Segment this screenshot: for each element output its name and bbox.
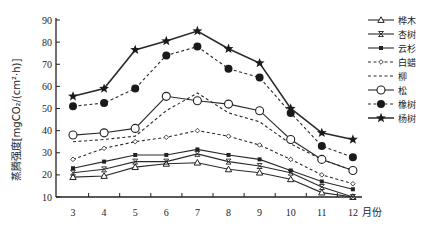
- y-tick-label: 20: [42, 169, 52, 180]
- filled-square-marker-icon: [164, 153, 168, 157]
- filled-square-marker-icon: [71, 166, 75, 170]
- small-diamond-marker-icon: [195, 128, 200, 133]
- filled-star-marker-icon: [224, 44, 234, 53]
- series-橡树: [69, 43, 357, 162]
- legend-item: 白蜡: [368, 57, 416, 68]
- legend-item: 松: [368, 85, 407, 96]
- x-tick-label: 11: [317, 207, 327, 218]
- small-diamond-marker-icon: [226, 134, 231, 139]
- open-circle-marker-icon: [287, 135, 295, 143]
- legend-label: 桦木: [398, 15, 416, 26]
- open-circle-marker-icon: [69, 131, 77, 139]
- x-axis-unit: 月份: [362, 207, 382, 218]
- open-circle-marker-icon: [256, 107, 264, 115]
- open-circle-marker-icon: [318, 155, 326, 163]
- filled-star-marker-icon: [130, 45, 140, 54]
- filled-square-marker-icon: [351, 187, 355, 191]
- legend-label: 杨树: [398, 113, 416, 124]
- small-diamond-marker-icon: [257, 143, 262, 148]
- legend-item: 杏树: [368, 29, 416, 40]
- series-云杉: [71, 147, 355, 191]
- y-tick-label: 80: [42, 37, 52, 48]
- x-tick-label: 8: [226, 207, 231, 218]
- x-tick-label: 6: [164, 207, 169, 218]
- open-circle-marker-icon: [131, 124, 139, 132]
- axes: 1020304050607080903456789101112: [42, 15, 362, 219]
- filled-circle-marker-icon: [100, 99, 108, 107]
- y-tick-label: 10: [42, 192, 52, 203]
- x-tick-label: 10: [286, 207, 296, 218]
- open-circle-marker-icon: [377, 86, 385, 94]
- x-tick-label: 9: [257, 207, 262, 218]
- open-circle-marker-icon: [100, 129, 108, 137]
- x-tick-label: 5: [133, 207, 138, 218]
- legend-label: 云杉: [398, 43, 416, 54]
- series-line: [73, 131, 353, 184]
- series-杏树: [71, 151, 356, 199]
- series-line: [73, 31, 353, 139]
- filled-circle-marker-icon: [193, 43, 201, 51]
- small-diamond-marker-icon: [288, 157, 293, 162]
- filled-star-marker-icon: [317, 128, 327, 137]
- y-tick-label: 50: [42, 103, 52, 114]
- open-circle-marker-icon: [349, 166, 357, 174]
- legend-label: 白蜡: [398, 57, 416, 68]
- small-diamond-marker-icon: [379, 60, 384, 65]
- x-tick-label: 4: [102, 207, 107, 218]
- small-diamond-marker-icon: [133, 139, 138, 144]
- filled-star-marker-icon: [161, 36, 171, 45]
- filled-circle-marker-icon: [349, 153, 357, 161]
- filled-circle-marker-icon: [318, 142, 326, 150]
- filled-square-marker-icon: [258, 157, 262, 161]
- open-circle-marker-icon: [193, 97, 201, 105]
- filled-circle-marker-icon: [131, 85, 139, 93]
- small-diamond-marker-icon: [71, 157, 76, 162]
- filled-square-marker-icon: [102, 160, 106, 164]
- open-circle-marker-icon: [162, 92, 170, 100]
- filled-circle-marker-icon: [225, 65, 233, 73]
- legend-item: 杨树: [368, 113, 416, 124]
- legend-item: 桦木: [368, 15, 416, 26]
- y-tick-label: 60: [42, 81, 52, 92]
- legend-item: 云杉: [368, 43, 416, 54]
- series-layer: [68, 26, 358, 200]
- filled-square-marker-icon: [289, 168, 293, 172]
- y-tick-label: 40: [42, 125, 52, 136]
- filled-square-marker-icon: [379, 46, 383, 50]
- y-axis-title: 蒸腾强度[mgCO₂/(cm²·h)]: [10, 59, 22, 182]
- filled-star-marker-icon: [376, 113, 386, 122]
- filled-circle-marker-icon: [162, 51, 170, 59]
- filled-circle-marker-icon: [256, 74, 264, 82]
- small-diamond-marker-icon: [320, 173, 325, 178]
- series-杨树: [68, 26, 358, 144]
- legend: 桦木杏树云杉白蜡柳松橡树杨树: [368, 15, 416, 124]
- legend-label: 柳: [398, 71, 407, 82]
- legend-label: 松: [398, 85, 407, 96]
- x-tick-label: 12: [348, 207, 358, 218]
- x-tick-label: 3: [71, 207, 76, 218]
- filled-circle-marker-icon: [377, 100, 385, 108]
- y-tick-label: 70: [42, 59, 52, 70]
- filled-square-marker-icon: [320, 180, 324, 184]
- legend-label: 橡树: [398, 99, 416, 110]
- small-diamond-marker-icon: [351, 181, 356, 186]
- filled-star-marker-icon: [68, 91, 78, 100]
- x-tick-label: 7: [195, 207, 200, 218]
- legend-item: 橡树: [368, 99, 416, 110]
- filled-square-marker-icon: [195, 147, 199, 151]
- open-circle-marker-icon: [225, 100, 233, 108]
- series-line: [73, 154, 353, 197]
- small-diamond-marker-icon: [164, 135, 169, 140]
- filled-star-marker-icon: [255, 58, 265, 67]
- filled-square-marker-icon: [227, 153, 231, 157]
- filled-circle-marker-icon: [69, 102, 77, 110]
- legend-label: 杏树: [398, 29, 416, 40]
- filled-star-marker-icon: [348, 134, 358, 143]
- legend-item: 柳: [368, 71, 407, 82]
- small-diamond-marker-icon: [102, 146, 107, 151]
- series-line: [73, 163, 353, 197]
- transpiration-chart: 1020304050607080903456789101112 桦木杏树云杉白蜡…: [0, 0, 425, 234]
- y-tick-label: 90: [42, 15, 52, 26]
- y-tick-label: 30: [42, 147, 52, 158]
- filled-square-marker-icon: [133, 153, 137, 157]
